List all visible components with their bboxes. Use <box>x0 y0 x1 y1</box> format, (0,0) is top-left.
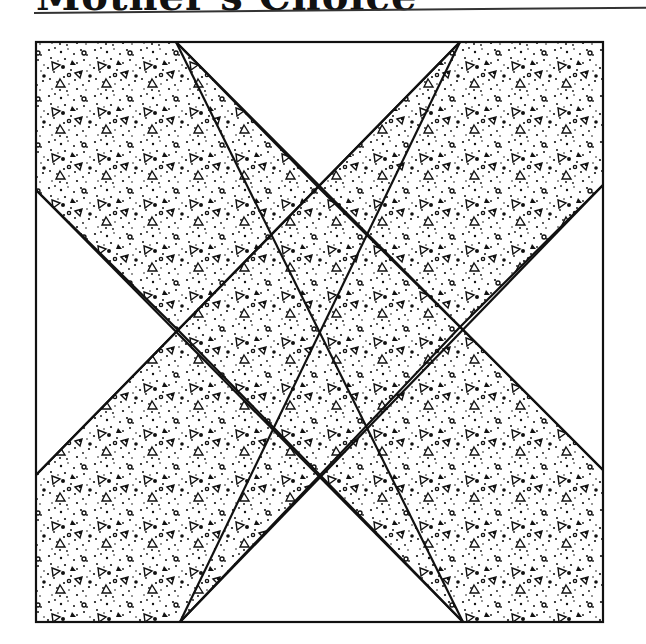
quilt-block <box>0 0 646 644</box>
